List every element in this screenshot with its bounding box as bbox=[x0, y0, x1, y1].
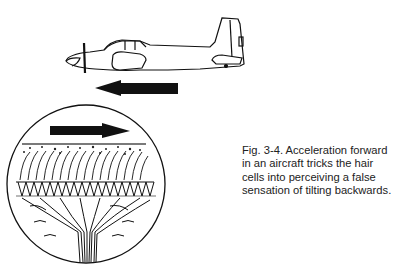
figure-illustration bbox=[0, 0, 412, 272]
airplane-icon bbox=[66, 18, 244, 73]
caption-line: in an aircraft tricks the hair bbox=[242, 157, 412, 170]
caption-line: sensation of tilting backwards. bbox=[242, 184, 412, 197]
left-arrow-icon bbox=[95, 80, 178, 96]
figure-caption: Fig. 3-4. Acceleration forward in an air… bbox=[242, 144, 412, 198]
hair-cells-inset bbox=[7, 105, 165, 263]
caption-line: cells into perceiving a false bbox=[242, 171, 412, 184]
caption-line: Fig. 3-4. Acceleration forward bbox=[242, 144, 412, 157]
